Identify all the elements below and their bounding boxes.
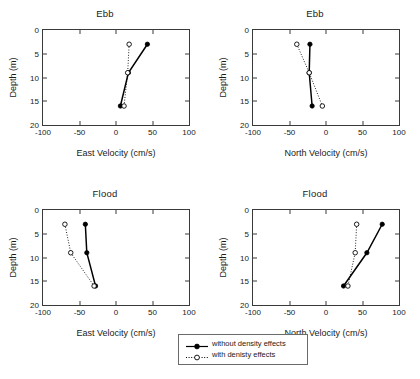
x-axis-label: North Velocity (cm/s): [252, 148, 400, 158]
x-tick-mark: [289, 210, 290, 214]
series-layer: [253, 210, 399, 305]
y-tick-mark: [43, 281, 47, 282]
legend-item: with denisty effects: [184, 349, 302, 360]
x-tick-mark: [152, 210, 153, 214]
x-tick-label: 0: [324, 128, 328, 137]
y-tick-mark: [43, 233, 47, 234]
x-tick-label: 50: [148, 128, 157, 137]
x-tick-label: 100: [182, 128, 195, 137]
x-tick-mark: [79, 30, 80, 34]
series-line-without-density: [120, 44, 147, 106]
x-tick-mark: [152, 121, 153, 125]
x-tick-mark: [152, 301, 153, 305]
x-tick-mark: [362, 210, 363, 214]
y-tick-label: 5: [245, 229, 249, 238]
data-point-without-density: [85, 251, 89, 255]
plot-area: 05101520-100-50050100: [252, 29, 400, 126]
x-tick-label: 0: [324, 308, 328, 317]
y-tick-mark: [253, 233, 257, 234]
x-tick-label: 0: [114, 128, 118, 137]
x-tick-mark: [326, 30, 327, 34]
y-tick-mark: [395, 101, 399, 102]
y-tick-label: 10: [240, 253, 249, 262]
plot-area: 05101520-100-50050100: [252, 209, 400, 306]
data-point-with-density: [295, 42, 300, 47]
panel-title: Flood: [210, 188, 420, 199]
data-point-without-density: [380, 222, 384, 226]
x-tick-mark: [362, 301, 363, 305]
data-point-with-density: [353, 250, 358, 255]
y-tick-label: 0: [35, 206, 39, 215]
data-point-with-density: [320, 104, 325, 109]
x-tick-mark: [326, 121, 327, 125]
x-tick-mark: [289, 121, 290, 125]
data-point-with-density: [127, 42, 132, 47]
data-point-with-density: [354, 222, 359, 227]
y-axis-label: Depth (m): [216, 209, 230, 306]
x-tick-mark: [79, 121, 80, 125]
y-tick-mark: [395, 257, 399, 258]
y-tick-mark: [43, 53, 47, 54]
x-tick-mark: [326, 210, 327, 214]
y-tick-mark: [43, 101, 47, 102]
panel-title: Ebb: [0, 8, 210, 19]
data-point-with-density: [92, 284, 97, 289]
x-tick-label: -50: [74, 128, 86, 137]
x-tick-label: 50: [358, 308, 367, 317]
y-tick-label: 15: [240, 97, 249, 106]
legend-item: without density effects: [184, 338, 302, 349]
x-tick-label: -100: [35, 308, 51, 317]
panel-title: Ebb: [210, 8, 420, 19]
x-tick-label: 100: [392, 128, 405, 137]
y-tick-label: 5: [35, 229, 39, 238]
x-tick-label: 100: [182, 308, 195, 317]
x-tick-mark: [326, 301, 327, 305]
y-tick-mark: [253, 257, 257, 258]
x-tick-mark: [289, 301, 290, 305]
x-tick-mark: [79, 210, 80, 214]
y-tick-mark: [253, 281, 257, 282]
data-point-without-density: [83, 222, 87, 226]
y-tick-mark: [395, 233, 399, 234]
data-point-with-density: [63, 222, 68, 227]
y-tick-label: 15: [30, 97, 39, 106]
x-tick-label: 50: [148, 308, 157, 317]
series-line-with-density: [65, 224, 94, 286]
y-tick-label: 5: [35, 49, 39, 58]
y-tick-mark: [185, 101, 189, 102]
legend-label: without density effects: [210, 339, 286, 348]
x-tick-mark: [362, 30, 363, 34]
plot-area: 05101520-100-50050100: [42, 29, 190, 126]
x-tick-label: -50: [284, 308, 296, 317]
x-tick-label: 50: [358, 128, 367, 137]
series-layer: [43, 210, 189, 305]
y-axis-label: Depth (m): [216, 29, 230, 126]
y-tick-mark: [185, 77, 189, 78]
x-tick-label: -100: [245, 308, 261, 317]
x-tick-label: -100: [245, 128, 261, 137]
series-layer: [253, 30, 399, 125]
y-tick-label: 0: [245, 26, 249, 35]
data-point-without-density: [310, 104, 314, 108]
panel-ebb-east: Ebb 05101520-100-50050100 East Velocity …: [0, 0, 210, 180]
y-tick-mark: [395, 77, 399, 78]
x-tick-label: 100: [392, 308, 405, 317]
data-point-without-density: [341, 284, 345, 288]
y-tick-mark: [185, 257, 189, 258]
data-point-with-density: [307, 70, 312, 75]
data-point-with-density: [125, 70, 130, 75]
data-point-with-density: [68, 250, 73, 255]
x-tick-label: 0: [114, 308, 118, 317]
x-axis-label: East Velocity (cm/s): [42, 328, 190, 338]
y-tick-mark: [395, 281, 399, 282]
panel-ebb-north: Ebb 05101520-100-50050100 North Velocity…: [210, 0, 420, 180]
series-layer: [43, 30, 189, 125]
y-tick-label: 10: [30, 253, 39, 262]
y-axis-label: Depth (m): [6, 209, 20, 306]
y-tick-mark: [185, 233, 189, 234]
y-tick-mark: [43, 257, 47, 258]
x-tick-label: -50: [284, 128, 296, 137]
y-tick-label: 0: [245, 206, 249, 215]
panel-flood-north: Flood 05101520-100-50050100 North Veloci…: [210, 180, 420, 360]
y-tick-mark: [253, 53, 257, 54]
